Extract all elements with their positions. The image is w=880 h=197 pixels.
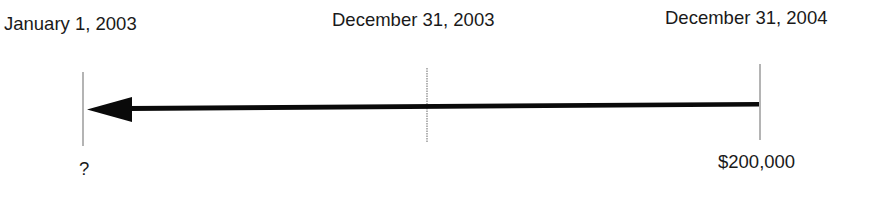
value-label-end: $200,000 [718,153,795,172]
date-label-end: December 31, 2004 [665,9,828,28]
arrow-shaft [130,102,759,111]
value-label-start: ? [79,160,89,179]
arrow-left-icon [87,97,132,122]
date-label-middle: December 31, 2003 [332,11,495,30]
date-label-start: January 1, 2003 [4,15,137,34]
